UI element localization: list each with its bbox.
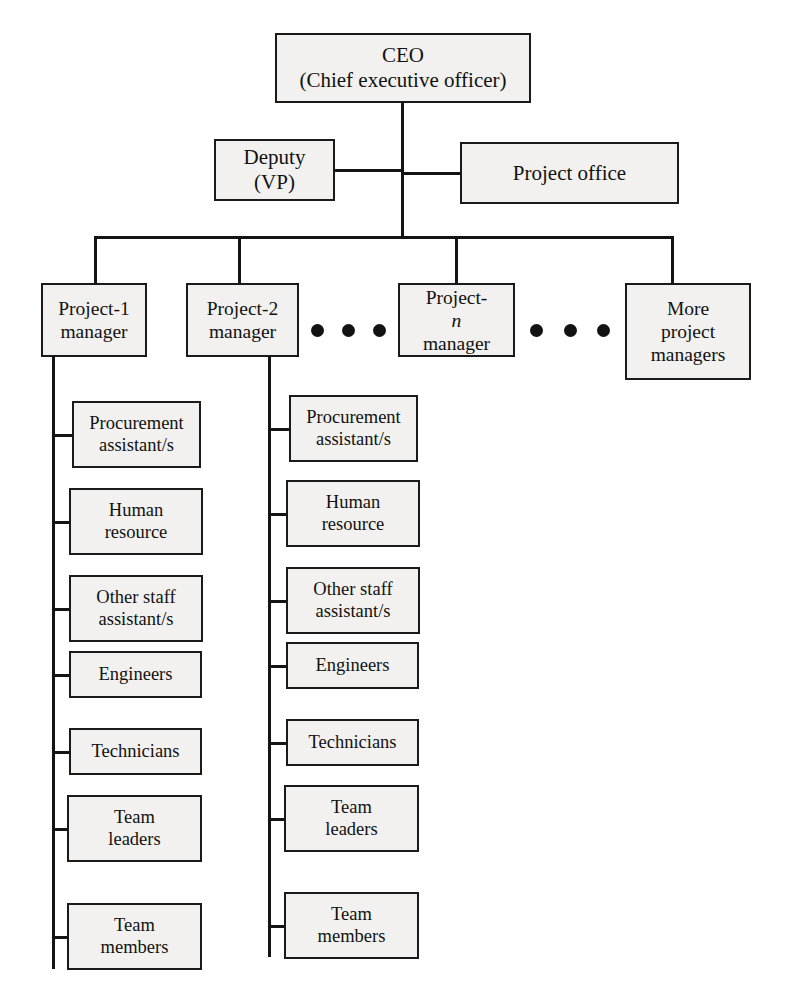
c2-staff-4-label: Engineers	[316, 655, 390, 677]
box-ceo[interactable]: CEO (Chief executive officer)	[275, 33, 531, 103]
c1-staff-2-line-1: Human	[105, 500, 168, 522]
ellipsis-dot-left-3	[373, 324, 386, 337]
c1-staff-1-line-1: Procurement	[89, 413, 184, 435]
manager-1-line-1: Project-1	[58, 297, 129, 320]
deputy-line-2: (VP)	[244, 170, 306, 195]
box-project-n-manager[interactable]: Project-n manager	[398, 283, 515, 357]
deputy-line-1: Deputy	[244, 145, 306, 170]
ellipsis-dot-right-2	[564, 324, 577, 337]
connector-drop-manager-1	[94, 236, 97, 284]
box-c2-procurement-assistants[interactable]: Procurement assistant/s	[289, 395, 418, 462]
c2-staff-2-line-1: Human	[322, 492, 385, 514]
manager-n-prefix: Project-	[423, 286, 490, 309]
c1-staff-1-line-2: assistant/s	[89, 435, 184, 457]
ellipsis-dot-left-2	[342, 324, 355, 337]
box-c2-team-leaders[interactable]: Team leaders	[284, 785, 419, 852]
ellipsis-dot-right-1	[530, 324, 543, 337]
c1-staff-5-label: Technicians	[91, 741, 179, 763]
connector-drop-manager-2	[238, 236, 241, 284]
manager-n-index: n	[423, 309, 490, 332]
connector-stub-c1-1	[52, 434, 74, 437]
c2-staff-7-line-2: members	[318, 926, 386, 948]
box-c1-technicians[interactable]: Technicians	[69, 728, 202, 775]
ceo-line-1: CEO	[299, 43, 506, 68]
c1-staff-2-line-2: resource	[105, 522, 168, 544]
c2-staff-1-line-2: assistant/s	[306, 429, 401, 451]
connector-trunk-column-1	[52, 357, 55, 969]
connector-manager-bus	[94, 236, 674, 239]
box-c2-human-resource[interactable]: Human resource	[286, 480, 420, 547]
org-chart-diagram: CEO (Chief executive officer) Deputy (VP…	[0, 0, 789, 997]
c1-staff-3-line-2: assistant/s	[96, 609, 175, 631]
box-c2-other-staff-assistants[interactable]: Other staff assistant/s	[286, 567, 420, 634]
more-managers-line-3: managers	[651, 343, 726, 366]
box-c1-team-leaders[interactable]: Team leaders	[67, 795, 202, 862]
more-managers-line-2: project	[651, 320, 726, 343]
box-more-project-managers[interactable]: More project managers	[625, 283, 751, 380]
box-c2-team-members[interactable]: Team members	[284, 892, 419, 959]
connector-drop-manager-n	[455, 236, 458, 284]
box-c1-human-resource[interactable]: Human resource	[69, 488, 203, 555]
c2-staff-5-label: Technicians	[308, 732, 396, 754]
more-managers-line-1: More	[651, 297, 726, 320]
manager-2-line-2: manager	[207, 320, 278, 343]
ellipsis-dot-left-1	[311, 324, 324, 337]
c2-staff-6-line-2: leaders	[325, 819, 377, 841]
c1-staff-7-line-1: Team	[101, 915, 169, 937]
manager-2-line-1: Project-2	[207, 297, 278, 320]
c2-staff-7-line-1: Team	[318, 904, 386, 926]
c1-staff-3-line-1: Other staff	[96, 587, 175, 609]
box-c1-other-staff-assistants[interactable]: Other staff assistant/s	[69, 575, 203, 642]
manager-n-line-1: Project-n	[423, 286, 490, 332]
manager-n-line-2: manager	[423, 332, 490, 355]
c2-staff-3-line-1: Other staff	[313, 579, 392, 601]
box-c2-technicians[interactable]: Technicians	[286, 719, 419, 766]
box-project-office[interactable]: Project office	[460, 142, 679, 204]
c2-staff-6-line-1: Team	[325, 797, 377, 819]
connector-trunk-column-2	[268, 357, 271, 957]
manager-1-line-2: manager	[58, 320, 129, 343]
box-project-1-manager[interactable]: Project-1 manager	[41, 283, 147, 357]
box-deputy-vp[interactable]: Deputy (VP)	[214, 139, 335, 201]
c1-staff-4-label: Engineers	[99, 664, 173, 686]
box-project-2-manager[interactable]: Project-2 manager	[186, 283, 299, 357]
ceo-line-2: (Chief executive officer)	[299, 68, 506, 93]
connector-project-office-link	[401, 172, 462, 175]
c1-staff-7-line-2: members	[101, 937, 169, 959]
box-c1-team-members[interactable]: Team members	[67, 903, 202, 970]
c2-staff-3-line-2: assistant/s	[313, 601, 392, 623]
project-office-label: Project office	[513, 161, 626, 186]
c1-staff-6-line-2: leaders	[108, 829, 160, 851]
connector-deputy-link	[334, 169, 403, 172]
ellipsis-dot-right-3	[597, 324, 610, 337]
c2-staff-2-line-2: resource	[322, 514, 385, 536]
c2-staff-1-line-1: Procurement	[306, 407, 401, 429]
box-c2-engineers[interactable]: Engineers	[286, 642, 419, 689]
connector-drop-manager-more	[671, 236, 674, 284]
c1-staff-6-line-1: Team	[108, 807, 160, 829]
connector-stub-c2-1	[268, 428, 290, 431]
box-c1-procurement-assistants[interactable]: Procurement assistant/s	[72, 401, 201, 468]
box-c1-engineers[interactable]: Engineers	[69, 651, 202, 698]
